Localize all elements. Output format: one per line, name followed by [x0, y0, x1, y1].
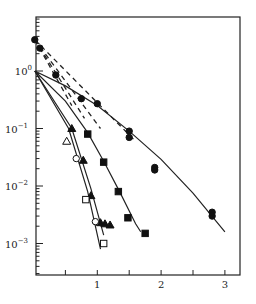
- y-tick-label: 10−1: [5, 122, 28, 135]
- x-tick-label: 1: [94, 279, 100, 290]
- marker-filled-circles: [32, 37, 38, 43]
- marker-filled-circles: [78, 95, 84, 101]
- dashed-fit-line: [35, 40, 136, 142]
- marker-filled-squares: [142, 230, 148, 236]
- marker-filled-squares: [100, 159, 106, 165]
- y-tick-label: 10−2: [5, 179, 28, 192]
- plot-frame: [36, 17, 240, 275]
- marker-filled-circles: [152, 167, 158, 173]
- marker-open-circles: [73, 155, 79, 161]
- marker-open-circles: [92, 218, 98, 224]
- log-decay-chart: 12310010−110−210−3: [0, 0, 256, 304]
- marker-filled-circles: [126, 134, 132, 140]
- marker-filled-circles: [94, 100, 100, 106]
- marker-filled-circles: [209, 213, 215, 219]
- data-markers: [32, 37, 216, 247]
- marker-filled-circles: [53, 72, 59, 78]
- y-tick-label: 10−3: [5, 237, 28, 250]
- axis-ticks: 12310010−110−210−3: [5, 19, 228, 290]
- x-tick-label: 3: [222, 279, 228, 290]
- y-tick-label: 100: [15, 64, 32, 77]
- x-tick-label: 2: [158, 279, 164, 290]
- marker-open-triangles: [63, 137, 71, 144]
- marker-open-squares: [83, 196, 89, 202]
- marker-filled-squares: [85, 131, 91, 137]
- dashed-fit-line: [35, 40, 101, 129]
- marker-filled-squares: [125, 215, 131, 221]
- fit-line-filled-circles: [35, 71, 225, 232]
- marker-open-squares: [100, 240, 106, 246]
- fit-line-filled-triangles: [35, 71, 104, 235]
- marker-filled-squares: [115, 188, 121, 194]
- marker-filled-circles: [126, 128, 132, 134]
- marker-filled-circles: [37, 45, 43, 51]
